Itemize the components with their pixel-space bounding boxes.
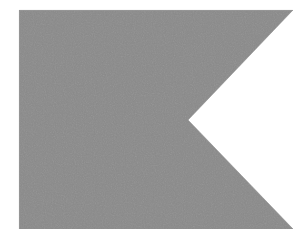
image-canvas: Guidon flag A plain gray swallowtail (gu…: [0, 0, 308, 240]
guidon-flag-graphic: [0, 0, 308, 240]
